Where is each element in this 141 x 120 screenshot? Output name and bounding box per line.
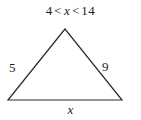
triangle-inequality-figure: 4<x<14 5 9 x bbox=[0, 0, 141, 120]
triangle-right-side-label: 9 bbox=[102, 60, 109, 73]
triangle-base-side-label: x bbox=[0, 103, 141, 116]
triangle-left-side-label: 5 bbox=[9, 61, 16, 74]
